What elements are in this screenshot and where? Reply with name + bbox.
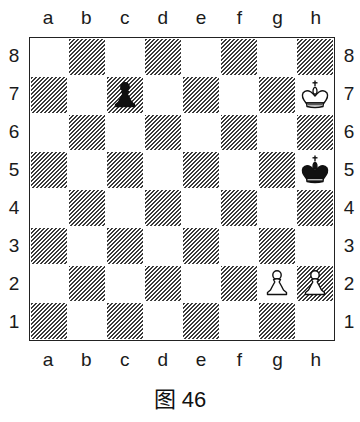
square-e1 bbox=[182, 302, 220, 340]
file-label: b bbox=[67, 348, 105, 372]
square-b3 bbox=[68, 227, 106, 265]
square-a1 bbox=[30, 302, 68, 340]
file-label: b bbox=[67, 6, 105, 30]
rank-label: 7 bbox=[338, 75, 360, 113]
rank-labels-right: 8 7 6 5 4 3 2 1 bbox=[338, 37, 360, 341]
square-e2 bbox=[182, 265, 220, 303]
square-g8 bbox=[258, 38, 296, 76]
rank-label: 3 bbox=[2, 227, 26, 265]
rank-label: 2 bbox=[338, 265, 360, 303]
file-label: c bbox=[106, 348, 144, 372]
square-d7 bbox=[144, 76, 182, 114]
square-f5 bbox=[220, 151, 258, 189]
square-c7 bbox=[106, 76, 144, 114]
square-c5 bbox=[106, 151, 144, 189]
rank-label: 1 bbox=[338, 303, 360, 341]
square-e8 bbox=[182, 38, 220, 76]
square-f3 bbox=[220, 227, 258, 265]
square-d6 bbox=[144, 114, 182, 152]
square-h6 bbox=[296, 114, 334, 152]
file-labels-top: a b c d e f g h bbox=[29, 6, 335, 30]
square-a8 bbox=[30, 38, 68, 76]
square-e4 bbox=[182, 189, 220, 227]
square-g5 bbox=[258, 151, 296, 189]
file-label: e bbox=[182, 6, 220, 30]
rank-label: 1 bbox=[2, 303, 26, 341]
rank-label: 5 bbox=[338, 151, 360, 189]
square-h4 bbox=[296, 189, 334, 227]
square-a3 bbox=[30, 227, 68, 265]
rank-label: 4 bbox=[338, 189, 360, 227]
file-label: a bbox=[29, 348, 67, 372]
square-h2 bbox=[296, 265, 334, 303]
file-label: e bbox=[182, 348, 220, 372]
square-f8 bbox=[220, 38, 258, 76]
square-d4 bbox=[144, 189, 182, 227]
file-label: h bbox=[297, 6, 335, 30]
square-c8 bbox=[106, 38, 144, 76]
rank-label: 3 bbox=[338, 227, 360, 265]
file-label: a bbox=[29, 6, 67, 30]
square-e3 bbox=[182, 227, 220, 265]
square-d2 bbox=[144, 265, 182, 303]
square-c4 bbox=[106, 189, 144, 227]
square-a6 bbox=[30, 114, 68, 152]
file-label: g bbox=[259, 348, 297, 372]
rank-label: 7 bbox=[2, 75, 26, 113]
square-b8 bbox=[68, 38, 106, 76]
white-pawn-icon bbox=[261, 267, 293, 299]
square-a7 bbox=[30, 76, 68, 114]
square-f6 bbox=[220, 114, 258, 152]
square-b5 bbox=[68, 151, 106, 189]
square-b2 bbox=[68, 265, 106, 303]
file-label: f bbox=[220, 6, 258, 30]
rank-label: 6 bbox=[2, 113, 26, 151]
rank-labels-left: 8 7 6 5 4 3 2 1 bbox=[2, 37, 26, 341]
file-label: g bbox=[259, 6, 297, 30]
square-g7 bbox=[258, 76, 296, 114]
file-label: c bbox=[106, 6, 144, 30]
file-label: d bbox=[144, 6, 182, 30]
square-b6 bbox=[68, 114, 106, 152]
square-d3 bbox=[144, 227, 182, 265]
square-d8 bbox=[144, 38, 182, 76]
white-king-icon bbox=[299, 79, 331, 111]
black-king-icon bbox=[299, 154, 331, 186]
square-e5 bbox=[182, 151, 220, 189]
chess-board bbox=[29, 37, 335, 341]
square-g6 bbox=[258, 114, 296, 152]
square-c3 bbox=[106, 227, 144, 265]
square-f7 bbox=[220, 76, 258, 114]
square-c6 bbox=[106, 114, 144, 152]
rank-label: 8 bbox=[2, 37, 26, 75]
square-h5 bbox=[296, 151, 334, 189]
square-e7 bbox=[182, 76, 220, 114]
rank-label: 8 bbox=[338, 37, 360, 75]
black-pawn-icon bbox=[109, 79, 141, 111]
square-a2 bbox=[30, 265, 68, 303]
square-h8 bbox=[296, 38, 334, 76]
square-h1 bbox=[296, 302, 334, 340]
square-b1 bbox=[68, 302, 106, 340]
figure-caption: 图 46 bbox=[0, 386, 360, 414]
square-h7 bbox=[296, 76, 334, 114]
rank-label: 5 bbox=[2, 151, 26, 189]
rank-label: 2 bbox=[2, 265, 26, 303]
square-g3 bbox=[258, 227, 296, 265]
square-g2 bbox=[258, 265, 296, 303]
square-e6 bbox=[182, 114, 220, 152]
square-b7 bbox=[68, 76, 106, 114]
rank-label: 6 bbox=[338, 113, 360, 151]
file-label: d bbox=[144, 348, 182, 372]
file-label: h bbox=[297, 348, 335, 372]
square-a4 bbox=[30, 189, 68, 227]
square-f2 bbox=[220, 265, 258, 303]
square-g1 bbox=[258, 302, 296, 340]
square-a5 bbox=[30, 151, 68, 189]
square-h3 bbox=[296, 227, 334, 265]
square-g4 bbox=[258, 189, 296, 227]
rank-label: 4 bbox=[2, 189, 26, 227]
square-f1 bbox=[220, 302, 258, 340]
square-c2 bbox=[106, 265, 144, 303]
square-d5 bbox=[144, 151, 182, 189]
